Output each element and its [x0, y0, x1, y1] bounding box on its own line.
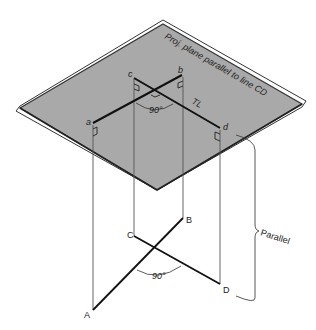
point-D: D: [223, 285, 230, 295]
angle-top-label: 90°: [149, 105, 163, 115]
point-C: C: [127, 230, 134, 240]
parallel-brace: [236, 135, 259, 301]
point-b-proj: b: [178, 65, 183, 75]
angle-bottom-label: 90°: [152, 271, 166, 281]
point-a-proj: a: [86, 117, 91, 127]
orthographic-diagram: Proj. plane parallel to line CD TL 90° 9…: [0, 0, 316, 330]
point-A: A: [84, 310, 90, 320]
space-lines: [93, 218, 220, 310]
parallel-label: Parallel: [259, 227, 291, 246]
point-B: B: [186, 215, 192, 225]
point-c-proj: c: [128, 69, 133, 79]
